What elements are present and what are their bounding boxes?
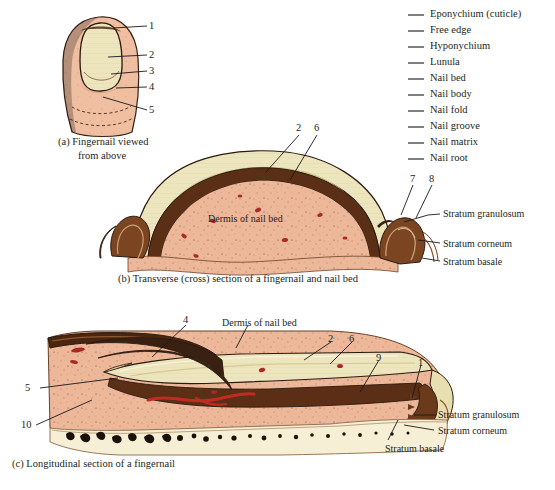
panel-c-illustration (36, 325, 453, 455)
panel-a-number-3: 3 (149, 65, 154, 76)
panel-b-illustration (100, 135, 440, 275)
panel-b-number-6: 6 (314, 122, 319, 133)
legend-item-nail-matrix[interactable]: Nail matrix (430, 136, 478, 147)
legend-item-hyponychium[interactable]: Hyponychium (430, 40, 490, 51)
panel-c-number-10: 10 (21, 419, 32, 430)
panel-a-illustration (63, 17, 147, 137)
legend-item-nail-root[interactable]: Nail root (430, 152, 468, 163)
legend-item-free-edge[interactable]: Free edge (430, 24, 471, 35)
panel-c-number-5: 5 (25, 382, 30, 393)
panel-a-caption-line2: from above (78, 150, 126, 161)
legend-item-nail-groove[interactable]: Nail groove (430, 120, 480, 131)
panel-c-dermis-label: Dermis of nail bed (222, 317, 297, 328)
panel-a-number-4: 4 (149, 81, 154, 92)
legend-item-eponychium[interactable]: Eponychium (cuticle) (430, 8, 521, 19)
panel-b-caption: (b) Transverse (cross) section of a fing… (118, 273, 358, 284)
panel-a-caption-line1: (a) Fingernail viewed (58, 136, 148, 147)
panel-c-number-1: 1 (418, 357, 423, 368)
legend-item-nail-bed[interactable]: Nail bed (430, 72, 466, 83)
legend-dashes (408, 15, 424, 159)
panel-a-number-1: 1 (149, 20, 154, 31)
panel-c-number-2: 2 (328, 333, 333, 344)
panel-c-stratum-corneum-label: Stratum corneum (438, 425, 507, 436)
panel-c-number-6: 6 (349, 333, 354, 344)
panel-b-number-2: 2 (296, 122, 301, 133)
legend-item-lunula[interactable]: Lunula (430, 56, 460, 67)
nail-anatomy-figure: Eponychium (cuticle) Free edge Hyponychi… (0, 0, 555, 490)
panel-b-stratum-basale-label: Stratum basale (443, 256, 502, 267)
panel-b-stratum-granulosum-label: Stratum granulosum (443, 208, 524, 219)
panel-c-stratum-basale-label: Stratum basale (385, 443, 444, 454)
panel-c-number-9: 9 (376, 352, 381, 363)
panel-b-stratum-corneum-label: Stratum corneum (443, 238, 512, 249)
legend-item-nail-fold[interactable]: Nail fold (430, 104, 468, 115)
panel-a-number-2: 2 (149, 49, 154, 60)
panel-c-stratum-granulosum-label: Stratum granulosum (438, 409, 519, 420)
panel-c-number-4: 4 (183, 314, 188, 325)
panel-c-caption: (c) Longitudinal section of a fingernail (12, 458, 175, 469)
panel-b-number-8: 8 (429, 173, 434, 184)
panel-b-number-7: 7 (410, 173, 415, 184)
legend-item-nail-body[interactable]: Nail body (430, 88, 472, 99)
panel-a-number-5: 5 (149, 104, 154, 115)
panel-b-dermis-label: Dermis of nail bed (208, 213, 283, 224)
